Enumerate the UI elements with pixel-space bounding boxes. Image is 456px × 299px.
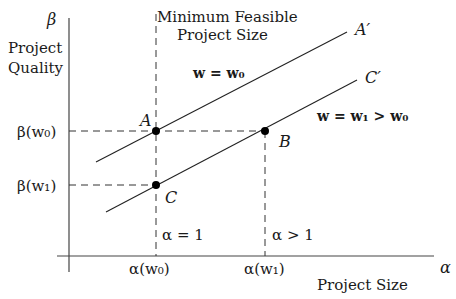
a-label: A [138, 111, 152, 130]
y-axis-label-line2: Quality [8, 59, 64, 77]
alpha-eq-1-label: α = 1 [162, 226, 204, 244]
c-prime-label: C′ [365, 68, 381, 87]
upper-curve-w0 [96, 32, 347, 162]
x-axis-symbol: α [440, 258, 451, 277]
c-label: C [165, 188, 177, 207]
x-tick-alpha-w0: α(w₀) [129, 260, 170, 278]
point-a [152, 127, 160, 135]
a-prime-label: A′ [353, 20, 371, 39]
alpha-gt-1-label: α > 1 [272, 226, 314, 244]
diagram: β Project Quality Minimum Feasible Proje… [0, 0, 456, 299]
x-axis-label: Project Size [317, 276, 408, 294]
b-label: B [278, 132, 291, 151]
min-size-label-line2: Project Size [177, 26, 268, 44]
lower-curve-w1 [106, 80, 357, 212]
min-size-label-line1: Minimum Feasible [157, 8, 298, 26]
x-tick-alpha-w1: α(w₁) [244, 260, 285, 278]
point-b [261, 127, 269, 135]
y-axis-symbol: β [46, 10, 56, 29]
y-axis-label-line1: Project [8, 39, 62, 57]
y-tick-beta-w1: β(w₁) [17, 177, 56, 195]
upper-curve-label: w = w₀ [192, 65, 245, 81]
point-c [152, 181, 160, 189]
lower-curve-label: w = w₁ > w₀ [316, 108, 408, 124]
y-tick-beta-w0: β(w₀) [17, 123, 56, 141]
